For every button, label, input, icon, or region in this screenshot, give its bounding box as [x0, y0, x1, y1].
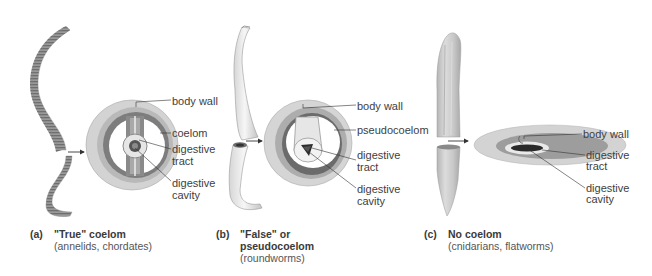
flatworm-illustration: [437, 33, 461, 216]
label-digestive-tract-a-2: tract: [172, 156, 193, 167]
label-digestive-cavity-b-1: digestive: [357, 184, 400, 195]
caption-panel-a: (a) "True" coelom (annelids, chordates): [30, 228, 190, 258]
caption-panel-b: (b) "False" or pseudocoelom (roundworms): [216, 228, 356, 270]
label-digestive-cavity-b-2: cavity: [357, 196, 385, 207]
pseudocoelom-cross-section: [264, 100, 352, 186]
panel-subtitle-b: (roundworms): [240, 252, 305, 264]
label-digestive-cavity-a-1: digestive: [172, 178, 215, 189]
label-digestive-cavity-c-2: cavity: [586, 194, 614, 205]
label-digestive-tract-b-1: digestive: [357, 150, 400, 161]
true-coelom-cross-section: [86, 100, 178, 190]
panel-title-c: No coelom: [448, 228, 502, 240]
annelid-worm-illustration: [30, 26, 72, 217]
label-body-wall-a: body wall: [172, 96, 218, 107]
panel-subtitle-a: (annelids, chordates): [54, 240, 152, 252]
label-digestive-tract-a-1: digestive: [172, 144, 215, 155]
panel-subtitle-c: (cnidarians, flatworms): [448, 240, 554, 252]
label-coelom: coelom: [172, 128, 207, 139]
label-body-wall-b: body wall: [357, 101, 403, 112]
panel-title-b-line2: pseudocoelom: [240, 240, 314, 252]
label-digestive-tract-c-2: tract: [586, 161, 607, 172]
label-digestive-cavity-a-2: cavity: [172, 190, 200, 201]
panel-tag-b: (b): [216, 228, 229, 240]
roundworm-illustration: [229, 26, 262, 210]
panel-title-b-line1: "False" or: [240, 228, 290, 240]
label-body-wall-c: body wall: [583, 129, 629, 140]
panel-title-a: "True" coelom: [54, 228, 126, 240]
panel-tag-a: (a): [30, 228, 43, 240]
panel-tag-c: (c): [424, 228, 437, 240]
caption-panel-c: (c) No coelom (cnidarians, flatworms): [424, 228, 594, 258]
label-pseudocoelom: pseudocoelom: [357, 125, 429, 136]
label-digestive-tract-b-2: tract: [357, 162, 378, 173]
